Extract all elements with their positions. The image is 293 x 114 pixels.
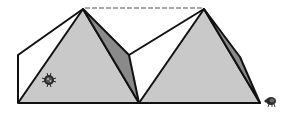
pyramids-svg [0,0,293,114]
bug-icon [264,97,276,107]
right-pyramid [129,9,260,103]
right-pyramid-front-face [139,9,260,103]
left-pyramid [18,9,139,103]
pyramids-diagram [0,0,293,114]
